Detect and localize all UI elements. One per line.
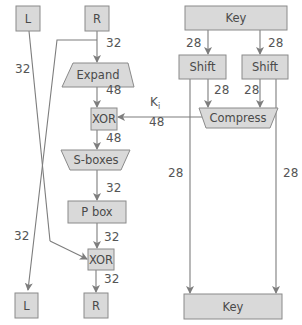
label-compress-to-xor: 48 xyxy=(149,115,164,129)
shift-left-label: Shift xyxy=(189,60,216,74)
input-l-label: L xyxy=(25,12,32,26)
label-key-to-shift-left: 28 xyxy=(186,36,201,50)
input-key-label: Key xyxy=(226,11,247,25)
label-key-to-shift-right: 28 xyxy=(268,36,283,50)
input-r-box: R xyxy=(85,6,109,31)
label-xor-to-sboxes: 48 xyxy=(106,131,121,145)
label-r-to-expand: 32 xyxy=(106,36,121,50)
label-shift-right-to-key: 28 xyxy=(283,166,298,180)
des-round-diagram: L R Key Expand XOR S-boxes P box XOR Shi… xyxy=(0,0,302,325)
xor1-block: XOR xyxy=(91,108,117,130)
sboxes-block: S-boxes xyxy=(61,150,130,170)
output-r-label: R xyxy=(92,299,100,313)
label-shift-left-to-key: 28 xyxy=(168,166,183,180)
xor2-label: XOR xyxy=(89,253,113,267)
output-key-box: Key xyxy=(184,294,282,319)
shift-left-block: Shift xyxy=(179,55,226,79)
xor1-label: XOR xyxy=(92,112,116,126)
pbox-block: P box xyxy=(68,201,126,223)
output-r-box: R xyxy=(84,293,108,318)
l-to-xor2-line xyxy=(29,31,50,241)
output-l-box: L xyxy=(15,293,38,318)
expand-block: Expand xyxy=(62,63,134,87)
compress-label: Compress xyxy=(209,111,266,125)
input-key-box: Key xyxy=(185,6,287,30)
pbox-label: P box xyxy=(81,205,113,219)
label-pbox-to-xor: 32 xyxy=(104,230,119,244)
xor2-block: XOR xyxy=(88,249,114,270)
output-l-label: L xyxy=(23,299,30,313)
round-key-label: Ki xyxy=(150,95,160,111)
label-l-cross: 32 xyxy=(15,62,30,76)
connectors xyxy=(28,30,276,293)
l-to-xor2-bend xyxy=(50,241,87,259)
label-expand-to-xor: 48 xyxy=(106,83,121,97)
shift-right-block: Shift xyxy=(242,55,288,79)
shift-right-label: Shift xyxy=(252,60,279,74)
round-key-subscript: i xyxy=(158,102,160,111)
label-shift-left-to-compress: 28 xyxy=(214,83,229,97)
input-r-label: R xyxy=(93,12,101,26)
expand-label: Expand xyxy=(76,68,119,82)
label-r-cross: 32 xyxy=(14,229,29,243)
label-shift-right-to-compress: 28 xyxy=(244,83,259,97)
label-xor-to-r: 32 xyxy=(104,272,119,286)
input-l-box: L xyxy=(16,6,40,31)
output-key-label: Key xyxy=(223,300,244,314)
label-sboxes-to-pbox: 32 xyxy=(106,181,121,195)
compress-block: Compress xyxy=(199,108,278,128)
sboxes-label: S-boxes xyxy=(74,153,119,167)
